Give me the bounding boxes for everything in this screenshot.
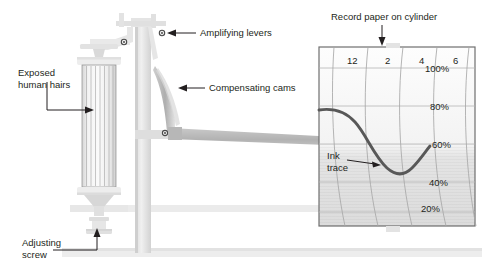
- label-line-1: Adjusting: [22, 237, 61, 248]
- hygrograph-diagram: Exposed human hairs Adjusting screw Ampl…: [0, 0, 500, 275]
- chart-ytick-3: 40%: [429, 177, 448, 188]
- chart-xtick-0: 12: [347, 55, 358, 66]
- chart-ytick-1: 80%: [430, 101, 449, 112]
- chart-xtick-1: 2: [385, 55, 390, 66]
- compensating-cams: [153, 66, 180, 136]
- label-line-2: trace: [327, 162, 348, 173]
- record-chart: [319, 43, 476, 232]
- chart-xtick-3: 6: [453, 55, 458, 66]
- chart-ytick-0: 100%: [425, 63, 449, 74]
- label-adjusting-screw: Adjusting screw: [22, 237, 92, 260]
- chart-ytick-2: 60%: [432, 139, 451, 150]
- chart-ytick-4: 20%: [421, 203, 440, 214]
- label-compensating-cams: Compensating cams: [209, 82, 296, 94]
- adjusting-screw: [86, 217, 112, 234]
- label-line-2: screw: [22, 249, 47, 260]
- label-line-2: human hairs: [18, 79, 70, 90]
- chart-xtick-2: 4: [419, 55, 424, 66]
- label-record-paper: Record paper on cylinder: [331, 11, 437, 23]
- diagram-canvas: [0, 0, 500, 275]
- label-amplifying-levers: Amplifying levers: [200, 27, 272, 39]
- label-exposed-human-hairs: Exposed human hairs: [18, 67, 92, 90]
- label-line-1: Exposed: [18, 67, 55, 78]
- label-ink-trace: Ink trace: [327, 150, 359, 173]
- label-line-1: Ink: [327, 150, 340, 161]
